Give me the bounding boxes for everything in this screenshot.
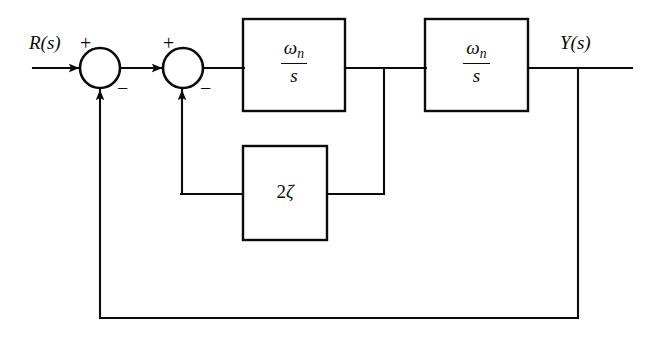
fraction-integrator-1: ωn s [281, 38, 307, 86]
gain-coefficient: 2 [276, 181, 286, 202]
summer2-plus-sign: + [163, 33, 174, 53]
omega-symbol-1: ω [284, 37, 297, 58]
omega-subscript-1: n [297, 46, 304, 61]
block-label-damping-gain: 2ζ [243, 182, 327, 201]
summer1-minus-sign: − [117, 78, 128, 98]
fraction-numerator-1: ωn [281, 38, 307, 62]
block-label-integrator-1: ωn s [243, 38, 345, 86]
zeta-symbol: ζ [286, 181, 294, 202]
omega-subscript-2: n [480, 46, 487, 61]
input-signal-label: R(s) [29, 33, 61, 52]
fraction-denominator-2: s [463, 65, 489, 86]
fraction-bar-2 [463, 63, 489, 64]
fraction-bar-1 [281, 63, 307, 64]
fraction-denominator-1: s [281, 65, 307, 86]
summing-junction-1 [80, 48, 120, 88]
summer2-minus-sign: − [200, 78, 211, 98]
block-label-integrator-2: ωn s [425, 38, 528, 86]
omega-symbol-2: ω [466, 37, 479, 58]
summing-junction-2 [163, 48, 203, 88]
fraction-integrator-2: ωn s [463, 38, 489, 86]
block-diagram-canvas: R(s) Y(s) + − + − ωn s ωn s 2ζ [0, 0, 649, 341]
fraction-numerator-2: ωn [463, 38, 489, 62]
output-signal-label: Y(s) [560, 33, 591, 52]
summer1-plus-sign: + [80, 33, 91, 53]
